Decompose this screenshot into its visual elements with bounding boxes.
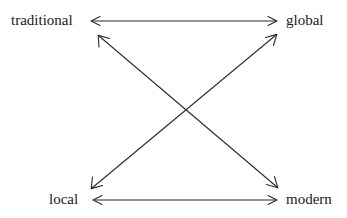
arrow-traditional-modern xyxy=(98,35,278,187)
diagram-arrows xyxy=(0,0,347,218)
node-label-local: local xyxy=(49,191,78,207)
arrow-traditional-global xyxy=(91,17,277,26)
node-label-traditional: traditional xyxy=(11,12,73,28)
node-label-global: global xyxy=(286,12,324,28)
arrow-local-modern xyxy=(93,196,277,205)
arrow-local-global xyxy=(91,34,277,188)
node-label-modern: modern xyxy=(286,191,332,207)
diagram-canvas: traditional global local modern xyxy=(0,0,347,218)
